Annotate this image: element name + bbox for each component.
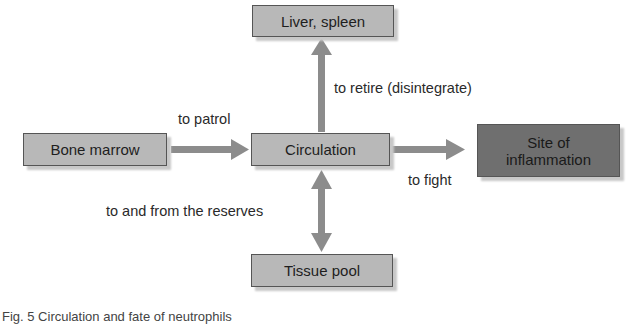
edge-label-to-and-from-reserves: to and from the reserves — [106, 203, 263, 219]
node-circulation: Circulation — [251, 133, 390, 166]
double-arrow-reserves — [311, 170, 332, 252]
arrow-to-patrol — [171, 139, 249, 160]
edge-label-to-retire: to retire (disintegrate) — [334, 80, 472, 96]
node-tissue-pool: Tissue pool — [251, 254, 393, 287]
node-liver-spleen: Liver, spleen — [252, 5, 394, 37]
edge-label-to-patrol: to patrol — [178, 111, 230, 127]
node-label: Circulation — [285, 141, 356, 158]
figure-caption: Fig. 5 Circulation and fate of neutrophi… — [2, 309, 232, 324]
node-label: Liver, spleen — [281, 13, 365, 30]
node-label: Tissue pool — [284, 262, 360, 279]
node-bone-marrow: Bone marrow — [23, 133, 167, 166]
edge-label-to-fight: to fight — [408, 172, 452, 188]
node-label: Bone marrow — [50, 141, 139, 158]
arrow-to-fight — [392, 139, 465, 160]
node-label: Site of inflammation — [498, 134, 599, 168]
node-site-of-inflammation: Site of inflammation — [477, 124, 620, 177]
arrow-to-retire — [311, 38, 332, 132]
